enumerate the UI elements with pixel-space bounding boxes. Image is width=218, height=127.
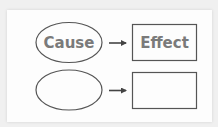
cause-ellipse-empty xyxy=(36,70,102,110)
cause-label: Cause xyxy=(44,34,95,52)
effect-box-empty xyxy=(133,73,197,109)
row-2 xyxy=(36,70,197,110)
effect-label: Effect xyxy=(140,34,189,52)
cause-effect-diagram: Cause Effect xyxy=(0,0,218,127)
row-1: Cause Effect xyxy=(36,23,197,63)
